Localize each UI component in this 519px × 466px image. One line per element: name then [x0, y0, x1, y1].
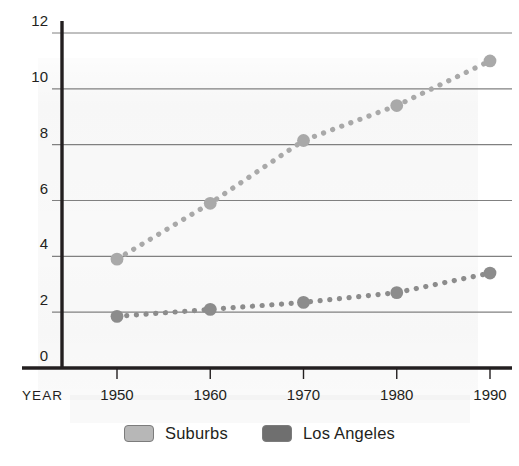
data-point-suburbs[interactable] — [204, 197, 217, 210]
legend-label-suburbs: Suburbs — [165, 424, 228, 443]
legend-label-los-angeles: Los Angeles — [303, 424, 395, 443]
x-tick-label: 1950 — [100, 386, 133, 403]
y-tick-label: 2 — [40, 291, 48, 308]
y-tick-label: 10 — [31, 68, 48, 85]
axes-group — [22, 21, 512, 368]
data-point-suburbs[interactable] — [484, 55, 497, 68]
x-axis-name: YEAR — [22, 388, 63, 403]
x-tick-label: 1960 — [194, 386, 227, 403]
chart-legend: Suburbs Los Angeles — [0, 424, 519, 443]
y-tick-label: 8 — [40, 124, 48, 141]
x-tick-label: 1980 — [380, 386, 413, 403]
chart-figure: 024681012 19501960197019801990 YEAR Subu… — [0, 0, 519, 466]
legend-item-los-angeles[interactable]: Los Angeles — [262, 424, 395, 443]
gridlines-group — [52, 33, 512, 312]
y-tick-label: 6 — [40, 180, 48, 197]
legend-swatch-suburbs — [124, 425, 154, 442]
data-point-suburbs[interactable] — [390, 99, 403, 112]
y-tick-label: 0 — [40, 347, 48, 364]
data-point-los-angeles[interactable] — [111, 310, 124, 323]
data-point-los-angeles[interactable] — [484, 267, 497, 280]
y-tick-labels-group: 024681012 — [31, 12, 48, 364]
legend-swatch-los-angeles — [262, 425, 292, 442]
series-line-los-angeles — [117, 273, 490, 316]
data-point-suburbs[interactable] — [297, 134, 310, 147]
data-series-group — [111, 55, 497, 323]
y-tick-label: 12 — [31, 12, 48, 29]
legend-item-suburbs[interactable]: Suburbs — [124, 424, 228, 443]
x-tick-label: 1970 — [287, 386, 320, 403]
x-axis-name-group: YEAR — [22, 388, 63, 403]
line-chart-plot: 024681012 19501960197019801990 YEAR — [0, 0, 519, 466]
data-point-los-angeles[interactable] — [204, 303, 217, 316]
x-tick-label: 1990 — [473, 386, 506, 403]
data-point-los-angeles[interactable] — [297, 296, 310, 309]
series-line-suburbs — [117, 61, 490, 259]
x-tick-labels-group: 19501960197019801990 — [100, 386, 506, 403]
data-point-los-angeles[interactable] — [390, 286, 403, 299]
y-tick-label: 4 — [40, 235, 48, 252]
data-point-suburbs[interactable] — [111, 253, 124, 266]
